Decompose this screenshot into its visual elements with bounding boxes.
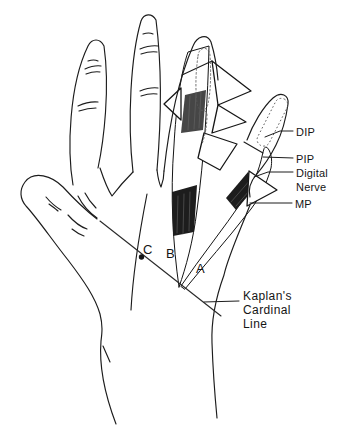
leader-dip <box>265 131 293 137</box>
hand-illustration: DIP PIP Digital Nerve MP Kaplan's Cardin… <box>0 0 339 433</box>
middle-crease-3 <box>140 88 158 91</box>
label-kaplans-line1: Kaplan's <box>243 289 292 303</box>
thumb-crease-1 <box>46 197 61 210</box>
label-kaplans-line3: Line <box>243 317 267 331</box>
leader-kaplans <box>204 301 239 302</box>
leader-pip <box>263 157 293 158</box>
index-crease-3 <box>78 102 98 106</box>
label-kaplans-line2: Cardinal <box>243 303 291 317</box>
ring-flexor-tendon <box>172 46 209 287</box>
index-tip-crease <box>88 60 98 61</box>
middle-crease-1 <box>140 46 158 49</box>
index-finger-outline <box>70 40 106 185</box>
sheath-flap-upper-right <box>212 61 251 105</box>
thumb-crease-4 <box>72 229 84 236</box>
label-point-b: B <box>166 246 175 261</box>
sheath-flap-mp <box>247 171 277 206</box>
label-dip: DIP <box>296 126 315 138</box>
sheath-cut-little <box>244 142 263 153</box>
middle-crease-2 <box>141 52 157 54</box>
label-mp: MP <box>295 198 312 210</box>
middle-web-ring <box>157 170 164 187</box>
index-web-middle <box>100 168 133 196</box>
sheath-flap-mid-right <box>212 105 246 133</box>
index-crease-4 <box>79 108 96 111</box>
index-crease-2 <box>86 72 100 74</box>
thumb-web-crease-1 <box>78 196 97 218</box>
label-point-c: C <box>143 242 152 257</box>
wrist-crease-flick <box>103 346 110 362</box>
label-digital-nerve-line1: Digital <box>296 167 328 179</box>
thumb-crease-3 <box>68 215 87 229</box>
label-point-a: A <box>196 261 205 276</box>
middle-crease-4 <box>141 94 157 96</box>
leader-digital-nerve <box>254 172 293 177</box>
middle-tip-crease <box>143 33 153 34</box>
thumb-web-crease-2 <box>85 193 96 208</box>
ring-sheath-band <box>181 90 206 133</box>
thumb-outline <box>21 175 116 424</box>
label-digital-nerve-line2: Nerve <box>296 181 326 193</box>
hand-anatomy-figure: DIP PIP Digital Nerve MP Kaplan's Cardin… <box>0 0 339 433</box>
ring-pulley-band <box>172 185 197 236</box>
label-pip: PIP <box>296 153 314 165</box>
index-crease-1 <box>85 66 101 69</box>
